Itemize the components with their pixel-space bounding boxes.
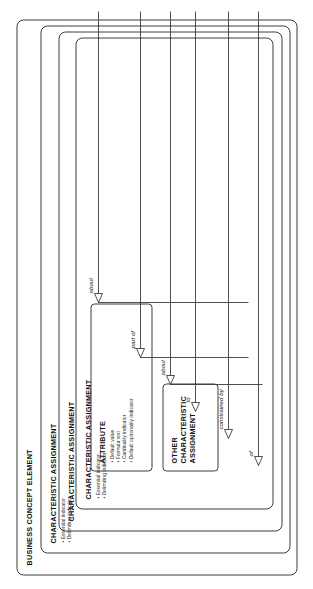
relationship-label-about-1: about (86, 278, 93, 293)
title-line: OTHER (169, 437, 178, 463)
entity-title-characteristic-assignment-1: CHARACTERISTIC ASSIGNMENT (48, 423, 57, 543)
relationship-label-constrained-by: constrained by (216, 389, 223, 429)
bullet-item: Default value (108, 398, 114, 462)
entity-title-business-concept-element: BUSINESS CONCEPT ELEMENT (24, 449, 33, 565)
entity-title-other-characteristic-assignment: OTHER CHARACTERISTIC ASSIGNMENT (169, 389, 196, 463)
relationship-label-of: of (246, 451, 253, 456)
diagram-content: BUSINESS CONCEPT ELEMENT CHARACTERISTIC … (0, 0, 313, 589)
entity-title-characteristic-assignment-2: CHARACTERISTIC ASSIGNMENT (66, 401, 75, 521)
relationship-label-to: to (183, 397, 190, 402)
bullet-item: Formula text (114, 398, 120, 462)
bullet-item: Cardinality indicator (120, 398, 126, 462)
entity-bullets-attribute: Default value Formula text Cardinality i… (108, 398, 133, 462)
relationship-label-about-2: about (158, 360, 165, 375)
entity-title-attribute: ATTRIBUTE (97, 421, 106, 463)
title-line: ASSIGNMENT (187, 413, 196, 463)
diagram-canvas: BUSINESS CONCEPT ELEMENT CHARACTERISTIC … (0, 0, 313, 589)
bullet-item: Default optionality indicator (127, 398, 133, 462)
relationship-label-part-of: part of (128, 330, 135, 348)
rotated-diagram-wrapper: BUSINESS CONCEPT ELEMENT CHARACTERISTIC … (0, 0, 313, 589)
title-line: CHARACTERISTIC (178, 396, 187, 463)
